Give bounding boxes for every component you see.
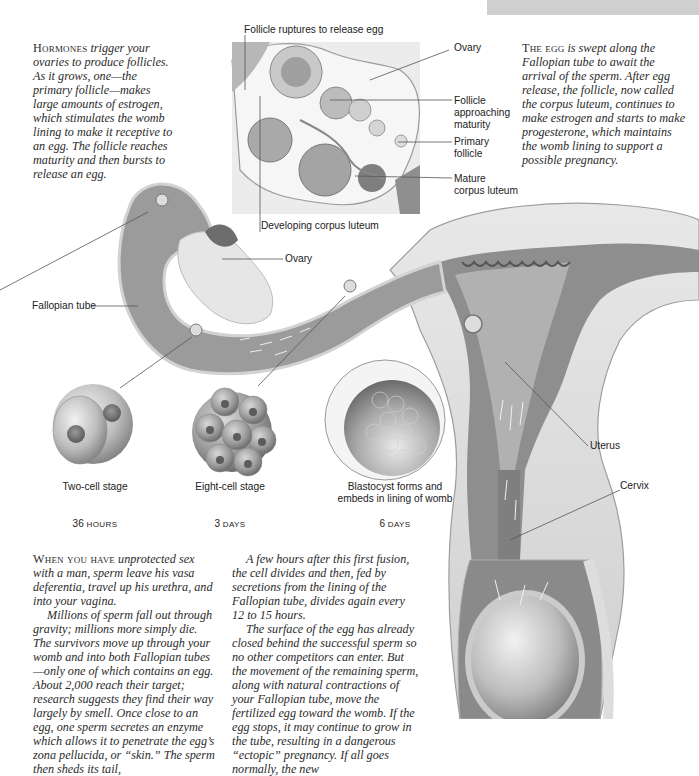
stage-label-two-cell: Two-cell stage (50, 481, 140, 493)
intro-right-paragraph: The egg is swept along the Fallopian tub… (522, 41, 687, 167)
label-follicle-approaching-maturity: Follicle approaching maturity (454, 95, 510, 131)
stage-time-two-cell: 36 hours (50, 518, 140, 529)
body-right-column: A few hours after this first fusion, the… (232, 552, 419, 776)
intro-left-paragraph: Hormones trigger your ovaries to produce… (33, 41, 173, 181)
label-primary-follicle: Primary follicle (454, 136, 489, 160)
stage-time-eight-cell: 3 days (185, 518, 275, 529)
blastocyst (325, 360, 445, 480)
intro-left-body: trigger your ovaries to produce follicle… (33, 41, 172, 181)
body-right-paragraph-2: The surface of the egg has already close… (232, 622, 419, 776)
stage-label-eight-cell: Eight-cell stage (185, 481, 275, 493)
label-uterus: Uterus (590, 440, 620, 452)
label-mature-corpus-luteum: Mature corpus luteum (454, 173, 518, 197)
label-follicle-ruptures: Follicle ruptures to release egg (244, 24, 383, 36)
stage-time-blastocyst: 6 days (345, 518, 445, 529)
intro-left-lead: Hormones (33, 41, 87, 55)
two-cell-embryo (53, 384, 133, 464)
intro-right-lead: The egg (522, 41, 564, 55)
label-developing-corpus-luteum: Developing corpus luteum (261, 220, 379, 232)
body-left-column: When you have unprotected sex with a man… (33, 552, 215, 776)
intro-right-body: is swept along the Fallopian tube to awa… (522, 41, 685, 167)
label-ovary: Ovary (285, 253, 312, 265)
label-fallopian-tube: Fallopian tube (32, 300, 96, 312)
eight-cell-embryo (192, 388, 276, 476)
body-left-paragraph-2: Millions of sperm fall out through gravi… (33, 608, 215, 776)
label-inset-ovary: Ovary (454, 42, 481, 54)
label-cervix: Cervix (620, 480, 649, 492)
body-right-paragraph-1: A few hours after this first fusion, the… (232, 552, 419, 622)
body-left-lead: When you have (33, 552, 115, 566)
stage-label-blastocyst: Blastocyst forms and embeds in lining of… (330, 481, 460, 505)
